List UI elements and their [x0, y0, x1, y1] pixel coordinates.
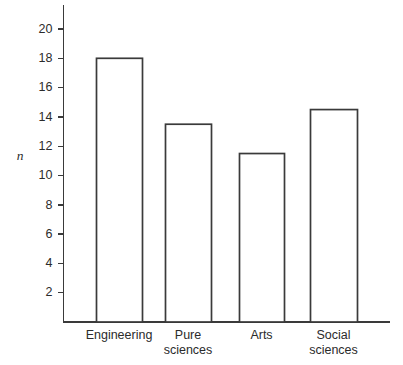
chart-canvas: 2468101214161820 EngineeringPuresciences… — [0, 0, 403, 365]
x-axis-category-label-line: Pure — [175, 328, 201, 342]
y-axis-tick-labels: 2468101214161820 — [39, 22, 53, 300]
y-axis-tick-label: 12 — [39, 139, 53, 153]
y-axis-tick-label: 20 — [39, 22, 53, 36]
y-axis-tick-label: 10 — [39, 168, 53, 182]
bar — [97, 58, 143, 322]
y-axis-tick-label: 16 — [39, 80, 53, 94]
x-axis-category-label: Arts — [250, 328, 272, 342]
x-axis-category-label-line: sciences — [309, 343, 358, 357]
y-axis-title: n — [17, 148, 24, 163]
y-axis-ticks — [58, 29, 64, 293]
bar — [166, 124, 212, 322]
y-axis-tick-label: 18 — [39, 51, 53, 65]
x-axis-category-label-line: Engineering — [86, 328, 153, 342]
x-axis-category-label: Puresciences — [164, 328, 213, 357]
bar-chart: 2468101214161820 EngineeringPuresciences… — [0, 0, 403, 365]
bars-group — [97, 58, 358, 322]
bar — [240, 154, 285, 322]
x-axis-category-label-line: Arts — [250, 328, 272, 342]
x-axis-category-label-line: Social — [316, 328, 350, 342]
bar — [311, 110, 358, 322]
x-axis-category-labels: EngineeringPuresciencesArtsSocialscience… — [86, 328, 358, 357]
y-axis-tick-label: 14 — [39, 110, 53, 124]
y-axis-tick-label: 6 — [46, 227, 53, 241]
y-axis-tick-label: 8 — [46, 198, 53, 212]
x-axis-category-label: Socialsciences — [309, 328, 358, 357]
x-axis-category-label-line: sciences — [164, 343, 213, 357]
y-axis-tick-label: 4 — [46, 256, 53, 270]
y-axis-tick-label: 2 — [46, 285, 53, 299]
x-axis-category-label: Engineering — [86, 328, 153, 342]
